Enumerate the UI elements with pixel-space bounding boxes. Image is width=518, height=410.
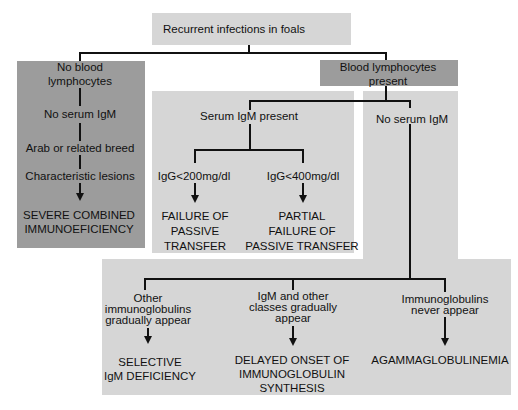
fpt-outcome-2: PASSIVE [171,225,219,238]
arrow-down-icon [441,338,449,346]
no-serum-igm-right: No serum IgM [376,113,448,126]
connector [79,52,81,61]
connector [444,317,446,339]
arab-breed: Arab or related breed [26,142,135,155]
pfpt-outcome-2: FAILURE OF [268,225,335,238]
no-serum-igm-left: No serum IgM [44,108,116,121]
igg-400-label: IgG<400mg/dl [267,170,340,183]
connector [79,52,387,54]
arrow-down-icon [191,195,199,203]
scid-outcome-2: IMMUNOEFICIENCY [24,223,133,236]
agammaglobulinemia: AGAMMAGLOBULINEMIA [371,354,508,367]
connector [144,278,446,280]
connector [385,52,387,60]
connector [79,183,81,193]
connector [302,183,304,195]
connector [444,278,446,292]
characteristic-lesions: Characteristic lesions [25,170,134,183]
connector [79,88,81,106]
connector [147,328,149,336]
selective-igm-1: SELECTIVE [118,356,181,369]
connector [385,86,387,100]
fpt-outcome-1: FAILURE OF [161,210,228,223]
no-lymphocytes-label-2: lymphocytes [48,75,112,88]
delayed-onset-3: SYNTHESIS [259,382,324,395]
pfpt-outcome-3: PASSIVE TRANSFER [245,240,358,253]
connector [79,123,81,141]
arrow-down-icon [144,336,152,344]
lymphocytes-present-1: Blood lymphocytes [340,61,437,74]
connector [409,100,411,108]
selective-igm-2: IgM DEFICIENCY [104,370,196,383]
igm-other-3: appear [275,312,311,325]
fpt-outcome-3: TRANSFER [164,240,226,253]
connector [79,155,81,169]
connector [249,100,251,110]
arrow-down-icon [289,338,297,346]
connector [249,124,251,150]
serum-igm-present-label: Serum IgM present [200,110,298,123]
connector [194,149,304,151]
delayed-onset-1: DELAYED ONSET OF [235,354,350,367]
no-lymphocytes-label-1: No blood [57,61,103,74]
connector [302,149,304,163]
connector [292,278,294,290]
delayed-onset-2: IMMUNOGLOBULIN [239,368,345,381]
root-label: Recurrent infections in foals [163,23,305,36]
connector [409,124,411,279]
other-ig-3: gradually appear [105,314,191,327]
connector [249,100,411,102]
connector [194,183,196,195]
lymphocytes-present-2: present [369,75,407,88]
ig-never-2: never appear [411,304,479,317]
connector [194,149,196,163]
connector [292,326,294,338]
igg-200-label: IgG<200mg/dl [158,170,231,183]
arrow-down-icon [76,193,84,201]
pfpt-outcome-1: PARTIAL [279,210,326,223]
arrow-down-icon [299,195,307,203]
scid-outcome-1: SEVERE COMBINED [23,209,135,222]
connector [144,278,146,290]
